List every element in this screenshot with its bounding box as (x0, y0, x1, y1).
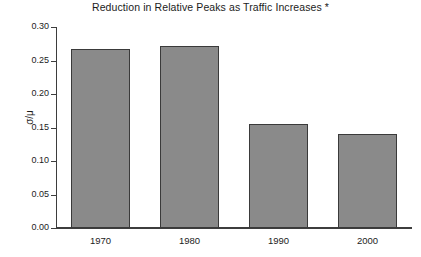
bar-1970 (71, 49, 130, 228)
x-axis-tick-label: 1970 (56, 235, 145, 246)
y-axis-tick-mark (51, 128, 56, 129)
y-axis-tick-label: 0.20 (31, 88, 49, 98)
bar-chart-figure: Reduction in Relative Peaks as Traffic I… (0, 0, 421, 257)
y-axis-line (56, 27, 57, 228)
y-axis-label: σ/μ (24, 98, 35, 138)
y-axis-tick-mark (51, 61, 56, 62)
y-axis-tick-mark (51, 161, 56, 162)
bar-1990 (249, 124, 308, 228)
bar-2000 (338, 134, 397, 228)
x-axis-tick-label: 1990 (234, 235, 323, 246)
y-axis-tick-mark (51, 94, 56, 95)
x-axis-tick-label: 2000 (323, 235, 412, 246)
y-axis-tick-label: 0.25 (31, 55, 49, 65)
y-axis-tick-label: 0.10 (31, 155, 49, 165)
x-axis-tick-label: 1980 (145, 235, 234, 246)
y-axis-tick-label: 0.15 (31, 122, 49, 132)
y-axis-tick-label: 0.00 (31, 222, 49, 232)
y-axis-tick-mark (51, 27, 56, 28)
y-axis-tick-mark (51, 195, 56, 196)
plot-area: 0.300.250.200.150.100.050.00 19701980199… (56, 27, 412, 228)
bar-1980 (160, 46, 219, 228)
chart-title: Reduction in Relative Peaks as Traffic I… (0, 1, 421, 13)
y-axis-tick-mark (51, 228, 56, 229)
y-axis-tick-label: 0.05 (31, 189, 49, 199)
y-axis-tick-label: 0.30 (31, 21, 49, 31)
